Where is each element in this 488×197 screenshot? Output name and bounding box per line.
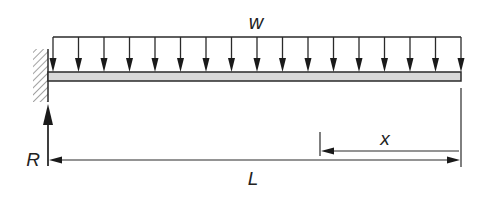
reaction-arrow xyxy=(43,104,53,166)
length-label: L xyxy=(248,168,259,189)
cantilever-beam-diagram: w R L x xyxy=(0,0,488,197)
load-label: w xyxy=(249,11,265,33)
load-arrow xyxy=(381,37,388,72)
load-arrow xyxy=(458,37,465,72)
load-arrow xyxy=(152,37,159,72)
load-arrow xyxy=(177,37,184,72)
beam xyxy=(48,72,461,81)
load-arrow xyxy=(330,37,337,72)
load-arrow xyxy=(126,37,133,72)
load-arrow xyxy=(356,37,363,72)
load-arrow xyxy=(407,37,414,72)
reaction-label: R xyxy=(26,149,40,170)
load-arrow xyxy=(75,37,82,72)
load-arrow xyxy=(279,37,286,72)
load-arrow xyxy=(254,37,261,72)
distributed-load xyxy=(50,37,465,72)
distance-label: x xyxy=(379,128,391,149)
fixed-wall-support xyxy=(33,49,48,102)
load-arrow xyxy=(228,37,235,72)
load-arrow xyxy=(305,37,312,72)
load-arrow xyxy=(50,37,57,72)
load-arrow xyxy=(432,37,439,72)
load-arrow xyxy=(101,37,108,72)
length-dimension xyxy=(49,157,460,164)
load-arrow xyxy=(203,37,210,72)
